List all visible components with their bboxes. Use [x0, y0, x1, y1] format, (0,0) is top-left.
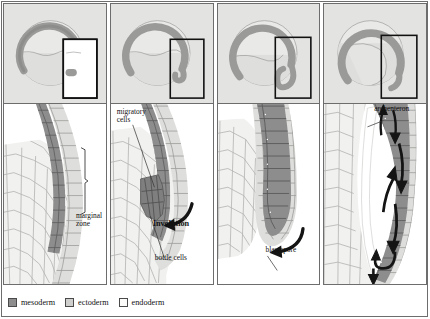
panel-3-detail-drawing — [218, 104, 320, 284]
germ-layer-legend: mesoderm ectoderm endoderm — [3, 290, 427, 314]
bottle-cells-label: bottle cells — [155, 254, 187, 262]
endoderm-swatch-icon — [119, 298, 128, 307]
legend-label-endoderm: endoderm — [132, 298, 165, 307]
involution-label: Involution — [153, 220, 189, 228]
legend-item-endoderm: endoderm — [119, 298, 165, 307]
legend-label-mesoderm: mesoderm — [21, 298, 55, 307]
panel-4-overview — [323, 3, 427, 104]
archenteron-label: archenteron — [374, 105, 409, 113]
panel-row: marginal zone — [3, 3, 427, 285]
panel-involution: migratory cells Involution bottle cells — [110, 3, 214, 285]
panel-1-detail: marginal zone — [3, 104, 107, 285]
migratory-cells-label: migratory cells — [117, 108, 146, 125]
legend-item-ectoderm: ectoderm — [65, 298, 108, 307]
panel-marginal-zone: marginal zone — [3, 3, 107, 285]
panel-archenteron: archenteron — [323, 3, 427, 285]
panel-3-detail: blastopore — [217, 104, 321, 285]
legend-item-mesoderm: mesoderm — [8, 298, 55, 307]
panel-2-overview — [110, 3, 214, 104]
panel-4-overview-drawing — [324, 4, 426, 103]
mesoderm-swatch-icon — [8, 298, 17, 307]
ectoderm-swatch-icon — [65, 298, 74, 307]
gastrulation-figure: marginal zone — [0, 0, 430, 319]
marginal-zone-label: marginal zone — [76, 212, 102, 229]
panel-2-detail: migratory cells Involution bottle cells — [110, 104, 214, 285]
panel-4-detail: archenteron — [323, 104, 427, 285]
panel-4-detail-drawing — [324, 104, 426, 284]
panel-1-overview — [3, 3, 107, 104]
panel-3-overview — [217, 3, 321, 104]
panel-2-overview-drawing — [111, 4, 213, 103]
panel-blastopore: blastopore — [217, 3, 321, 285]
blastopore-label: blastopore — [266, 246, 297, 254]
panel-1-detail-drawing — [4, 104, 106, 284]
legend-label-ectoderm: ectoderm — [78, 298, 108, 307]
panel-3-overview-drawing — [218, 4, 320, 103]
panel-1-overview-drawing — [4, 4, 106, 103]
blastopore-leader-line — [267, 256, 277, 271]
